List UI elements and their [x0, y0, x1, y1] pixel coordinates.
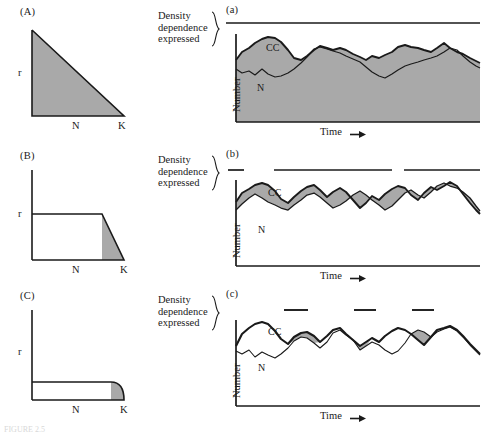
left-x-label-n-c: N — [72, 404, 80, 415]
right-panel-b: (b) CC N Number Time — [222, 148, 484, 288]
left-y-label-a: r — [18, 67, 22, 78]
figure-root: (A) r N K Density dependence expressed (… — [0, 0, 490, 436]
figure-row-a: (A) r N K Density dependence expressed (… — [0, 4, 490, 144]
density-dependence-shape-a — [10, 4, 165, 144]
n-label-b: N — [258, 224, 265, 235]
y-axis-label-b: Number — [231, 224, 242, 258]
right-panel-c: (c) CC N Number — [222, 288, 484, 428]
y-axis-label-c: Number — [231, 364, 242, 398]
left-panel-a: (A) r N K — [10, 4, 165, 144]
left-x-label-k-a: K — [118, 120, 126, 131]
figure-row-b: (B) r N K Density dependence expressed (… — [0, 148, 490, 288]
x-axis-label-c: Time — [320, 410, 342, 421]
right-arrow-icon-b — [350, 274, 366, 283]
density-dependence-shape-c — [10, 288, 165, 428]
y-axis-label-a: Number — [231, 78, 242, 112]
left-panel-b: (B) r N K — [10, 148, 165, 288]
right-panel-a: (a) CC N Number Time — [222, 4, 484, 144]
figure-row-c: (C) r N K Density dependence expressed (… — [0, 288, 490, 428]
right-arrow-icon-a — [350, 130, 366, 139]
curve-outline-c — [32, 382, 124, 400]
dd-caption-block-a: Density dependence expressed — [158, 10, 220, 45]
n-label-a: N — [257, 82, 264, 93]
timeseries-chart-c — [222, 288, 484, 428]
timeseries-chart-a — [222, 4, 484, 144]
density-dependence-shape-b — [10, 148, 165, 288]
left-x-label-n-a: N — [72, 120, 80, 131]
left-y-label-b: r — [18, 208, 22, 219]
dd-caption-block-b: Density dependence expressed — [158, 154, 220, 189]
left-x-label-k-c: K — [120, 404, 128, 415]
x-axis-label-b: Time — [320, 270, 342, 281]
left-panel-c: (C) r N K — [10, 288, 165, 428]
left-x-label-n-b: N — [72, 264, 80, 275]
left-x-label-k-b: K — [120, 264, 128, 275]
left-y-label-c: r — [18, 346, 22, 357]
cc-label-c: CC — [268, 326, 281, 337]
n-label-c: N — [258, 362, 265, 373]
x-axis-label-a: Time — [320, 126, 342, 137]
right-arrow-icon-c — [350, 414, 366, 423]
cc-label-b: CC — [268, 187, 281, 198]
timeseries-chart-b — [222, 148, 484, 288]
cc-label-a: CC — [266, 42, 279, 53]
dd-caption-block-c: Density dependence expressed — [158, 294, 220, 329]
figure-caption: FIGURE 2.5 — [4, 425, 484, 434]
